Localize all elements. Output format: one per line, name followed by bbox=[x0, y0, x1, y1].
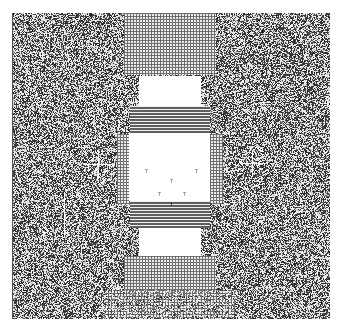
noise-pattern-image bbox=[0, 0, 338, 327]
pattern-canvas bbox=[0, 0, 338, 327]
